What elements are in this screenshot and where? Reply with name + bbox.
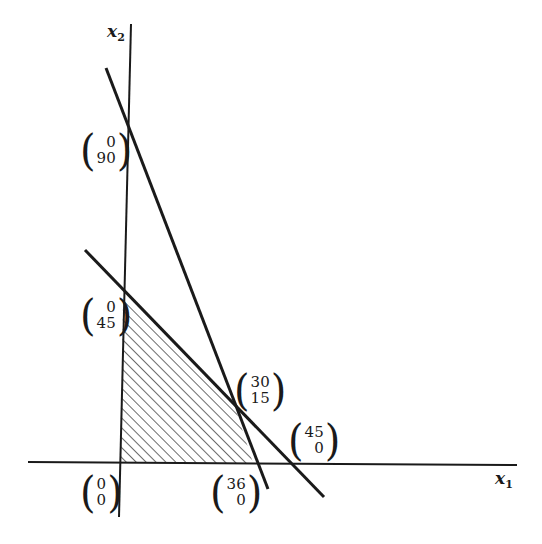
x2-label-sub: 2 (117, 31, 125, 44)
left-paren: ( (80, 129, 96, 171)
vec-top: 0 (106, 134, 116, 150)
x2-axis-label: x2 (107, 21, 125, 44)
x2-label-text: x (107, 21, 117, 41)
vec-bottom: 45 (97, 315, 116, 331)
left-paren: ( (234, 369, 250, 411)
vec-bottom: 15 (251, 390, 270, 406)
vec-bottom: 90 (97, 150, 116, 166)
point-label-origin: ( 00 ) (80, 472, 123, 512)
point-label-0-45: ( 045 ) (80, 295, 132, 335)
left-paren: ( (288, 419, 304, 461)
point-label-45-0: ( 450 ) (288, 420, 340, 460)
right-paren: ) (117, 294, 133, 336)
vec-top: 0 (97, 476, 107, 492)
lp-diagram (0, 0, 542, 544)
x1-axis (28, 462, 517, 465)
left-paren: ( (80, 471, 96, 513)
vec-top: 0 (106, 299, 116, 315)
x1-label-text: x (495, 468, 505, 488)
vec-bottom: 0 (314, 440, 324, 456)
point-label-0-90: ( 090 ) (80, 130, 132, 170)
left-paren: ( (210, 471, 226, 513)
right-paren: ) (271, 369, 287, 411)
point-label-30-15: ( 3015 ) (234, 370, 286, 410)
right-paren: ) (325, 419, 341, 461)
x1-label-sub: 1 (505, 478, 513, 491)
vec-bottom: 0 (97, 492, 107, 508)
vec-top: 45 (305, 424, 324, 440)
point-label-36-0: ( 360 ) (210, 472, 262, 512)
vec-bottom: 0 (236, 492, 246, 508)
right-paren: ) (247, 471, 263, 513)
right-paren: ) (107, 471, 123, 513)
vec-top: 36 (227, 476, 246, 492)
x1-axis-label: x1 (495, 468, 513, 491)
right-paren: ) (117, 129, 133, 171)
vec-top: 30 (251, 374, 270, 390)
left-paren: ( (80, 294, 96, 336)
